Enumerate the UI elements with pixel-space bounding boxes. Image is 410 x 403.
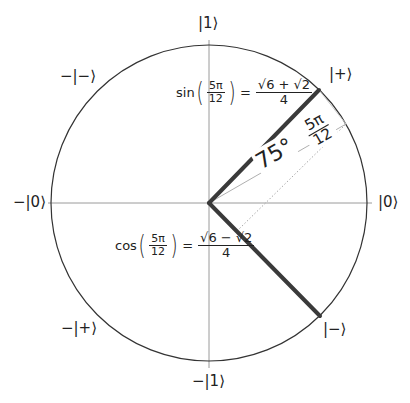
sin-equals: = bbox=[240, 85, 251, 100]
cos-arg-numerator: 5π bbox=[149, 233, 167, 246]
sin-value-denominator: 4 bbox=[278, 93, 290, 107]
sin-arg-denominator: 12 bbox=[207, 93, 225, 105]
label-neg-ket-plus: −|+⟩ bbox=[61, 321, 97, 336]
label-neg-ket-0: −|0⟩ bbox=[13, 195, 46, 210]
cos-value-numerator: √6 − √2 bbox=[198, 231, 254, 246]
label-neg-ket-minus: −|−⟩ bbox=[60, 69, 96, 84]
label-ket-minus: |−⟩ bbox=[323, 322, 346, 337]
label-neg-ket-1: −|1⟩ bbox=[192, 374, 225, 389]
cos-argument-fraction: 5π 12 bbox=[149, 233, 167, 257]
cos-value-fraction: √6 − √2 4 bbox=[198, 231, 254, 259]
cos-formula: cos ( 5π 12 ) = √6 − √2 4 bbox=[115, 231, 256, 259]
open-paren: ( bbox=[138, 232, 145, 258]
cos-equals: = bbox=[182, 238, 193, 253]
sin-arg-numerator: 5π bbox=[207, 80, 225, 93]
label-ket-plus: |+⟩ bbox=[329, 67, 352, 82]
sin-func: sin bbox=[176, 85, 195, 100]
sin-argument-fraction: 5π 12 bbox=[207, 80, 225, 104]
label-ket-0: |0⟩ bbox=[378, 195, 398, 210]
sin-value-numerator: √6 + √2 bbox=[256, 78, 312, 93]
label-ket-1: |1⟩ bbox=[198, 16, 218, 31]
unit-circle-diagram bbox=[0, 0, 410, 403]
open-paren: ( bbox=[196, 79, 203, 105]
close-paren: ) bbox=[228, 79, 235, 105]
cos-arg-denominator: 12 bbox=[149, 246, 167, 258]
sin-formula: sin ( 5π 12 ) = √6 + √2 4 bbox=[176, 78, 314, 106]
sin-value-fraction: √6 + √2 4 bbox=[256, 78, 312, 106]
cos-func: cos bbox=[115, 238, 137, 253]
close-paren: ) bbox=[171, 232, 178, 258]
cos-value-denominator: 4 bbox=[220, 246, 232, 260]
